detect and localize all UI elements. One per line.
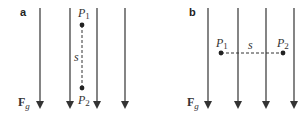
arrow-icon xyxy=(121,101,129,109)
point-p1-b xyxy=(219,51,224,56)
force-label-a: Fg xyxy=(18,95,30,111)
p2-label-b: P2 xyxy=(276,36,289,51)
arrowheads-b xyxy=(204,101,298,109)
point-p2-b xyxy=(281,51,286,56)
point-p1-a xyxy=(80,23,85,28)
point-p2-a xyxy=(80,86,85,91)
distance-label-b: s xyxy=(248,38,253,52)
panel-b: b P1 P2 s Fg xyxy=(187,6,298,111)
arrow-icon xyxy=(36,101,44,109)
panel-a: a P1 P2 s Fg xyxy=(18,6,129,111)
panel-b-label: b xyxy=(189,6,196,18)
force-label-b: Fg xyxy=(187,95,199,111)
p1-label-a: P1 xyxy=(77,6,90,21)
arrow-icon xyxy=(66,101,74,109)
arrow-icon xyxy=(290,101,298,109)
gravity-field-diagram: a P1 P2 s Fg b xyxy=(0,0,308,115)
panel-a-label: a xyxy=(20,6,27,18)
p1-label-b: P1 xyxy=(215,36,228,51)
arrow-icon xyxy=(204,101,212,109)
p2-label-a: P2 xyxy=(77,93,90,108)
arrow-icon xyxy=(93,101,101,109)
arrow-icon xyxy=(234,101,242,109)
arrow-icon xyxy=(262,101,270,109)
distance-label-a: s xyxy=(74,50,79,64)
